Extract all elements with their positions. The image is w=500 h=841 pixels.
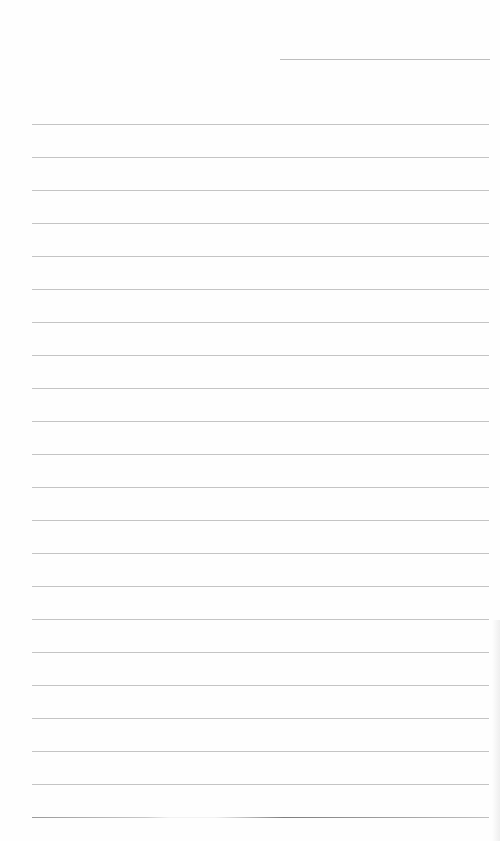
ruled-line [32,817,489,818]
ruled-line [32,322,489,323]
ruled-line [32,454,489,455]
ruled-line [32,388,489,389]
name-date-line [280,59,490,60]
ruled-line [32,751,489,752]
ruled-line [32,124,489,125]
ruled-line [32,586,489,587]
ruled-line [32,619,489,620]
ruled-line [32,685,489,686]
ruled-line [32,421,489,422]
ruled-line [32,289,489,290]
ruled-line [32,223,489,224]
ruled-line [32,553,489,554]
ruled-line [32,784,489,785]
ruled-line [32,355,489,356]
ruled-line [32,520,489,521]
ruled-line [32,718,489,719]
ruled-line [32,256,489,257]
ruled-line [32,190,489,191]
ruled-line [32,157,489,158]
ruled-line [32,487,489,488]
lined-paper-page [0,0,500,841]
ruled-line [32,652,489,653]
page-edge-shadow [492,620,500,841]
